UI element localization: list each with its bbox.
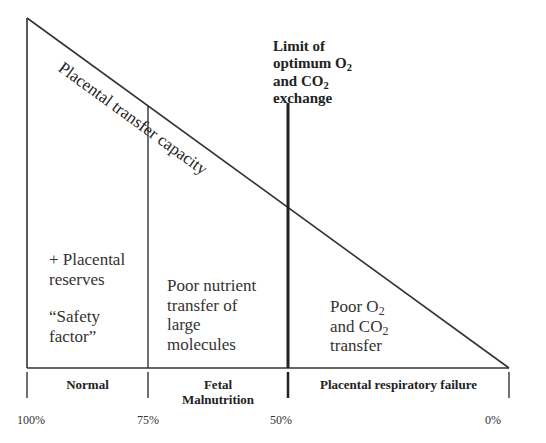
region-normal-text: + Placental reserves “Safety factor” [49, 250, 125, 346]
limit-label: Limit of optimum O2 and CO2 exchange [273, 38, 352, 107]
band-normal: Normal [27, 378, 148, 393]
tick-50: 50% [270, 414, 292, 428]
tick-75: 75% [137, 414, 159, 428]
tick-100: 100% [17, 414, 45, 428]
region-respiratory-text: Poor O2 and CO2 transfer [330, 297, 388, 356]
band-fetal-malnutrition: Fetal Malnutrition [148, 378, 288, 408]
band-respiratory-failure: Placental respiratory failure [288, 378, 509, 393]
tick-0: 0% [485, 414, 501, 428]
region-malnutrition-text: Poor nutrient transfer of large molecule… [167, 276, 256, 354]
